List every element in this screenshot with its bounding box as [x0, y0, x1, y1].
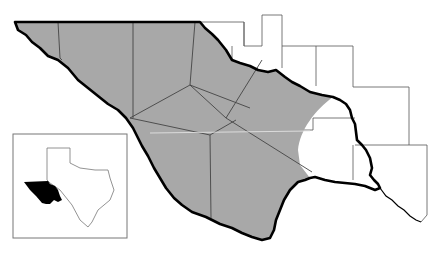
river-line — [380, 188, 421, 222]
map-figure — [0, 0, 439, 255]
inset-locator — [13, 134, 127, 238]
map-canvas — [0, 0, 439, 255]
